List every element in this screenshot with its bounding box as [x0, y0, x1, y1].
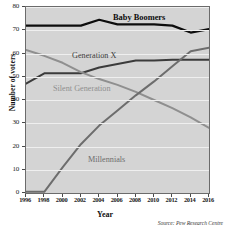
- series-line-generation-x: [26, 60, 209, 84]
- source-note: Source: Pew Research Centre: [158, 220, 223, 226]
- y-tick-mark: [22, 122, 25, 123]
- y-tick-label: 0: [3, 188, 19, 196]
- y-tick-label: 20: [3, 142, 19, 150]
- x-tick-label: 2016: [196, 196, 220, 203]
- y-tick-mark: [22, 53, 25, 54]
- y-axis-title: Number of voters: [8, 44, 17, 122]
- x-axis-title: Year: [0, 210, 210, 219]
- gridline: [26, 100, 209, 101]
- y-tick-label: 80: [3, 2, 19, 10]
- gridline: [26, 77, 209, 78]
- gridline: [26, 30, 209, 31]
- y-tick-mark: [22, 99, 25, 100]
- y-tick-mark: [22, 169, 25, 170]
- plot-area: [25, 6, 210, 194]
- y-tick-label: 10: [3, 165, 19, 173]
- gridline: [26, 170, 209, 171]
- gridline: [26, 7, 209, 8]
- y-tick-mark: [22, 6, 25, 7]
- gridline: [26, 123, 209, 124]
- y-tick-label: 70: [3, 25, 19, 33]
- series-line-silent-generation: [26, 50, 209, 128]
- line-chart: 01020304050607080 Number of voters 19961…: [0, 0, 225, 229]
- gridline: [26, 147, 209, 148]
- y-tick-mark: [22, 76, 25, 77]
- gridline: [26, 54, 209, 55]
- y-tick-mark: [22, 146, 25, 147]
- y-tick-mark: [22, 29, 25, 30]
- y-tick-mark: [22, 192, 25, 193]
